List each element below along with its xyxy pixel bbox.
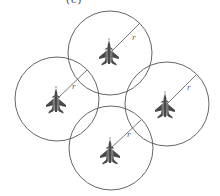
radius-line (167, 75, 196, 104)
coverage-node-right: r (125, 62, 209, 146)
fighter-jet-icon (155, 91, 175, 119)
fighter-jet-icon (99, 38, 119, 66)
fighter-jet-icon (46, 86, 66, 114)
radius-label: r (187, 84, 191, 92)
coverage-node-left: r (15, 57, 99, 141)
radius-label: r (127, 131, 131, 139)
radius-label: r (132, 34, 136, 42)
coverage-node-bottom: r (69, 106, 153, 190)
formation-coverage-diagram: r r r r (0, 0, 220, 196)
fighter-jet-icon (100, 137, 120, 165)
radius-line (110, 23, 140, 53)
coverage-node-top: r (68, 11, 152, 95)
radius-label: r (72, 83, 76, 91)
radius-line (111, 120, 141, 148)
